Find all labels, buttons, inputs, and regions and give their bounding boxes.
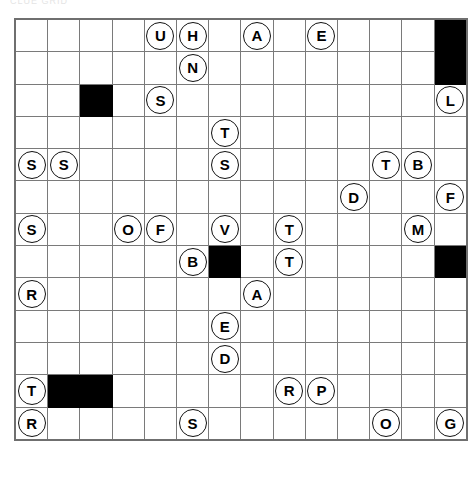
grid-cell-empty[interactable] — [144, 246, 176, 278]
grid-cell-empty[interactable] — [434, 375, 467, 407]
grid-cell-empty[interactable] — [370, 342, 402, 374]
grid-cell-empty[interactable] — [402, 407, 434, 440]
grid-cell-empty[interactable] — [80, 407, 112, 440]
grid-cell-empty[interactable] — [209, 52, 241, 84]
grid-cell-empty[interactable] — [177, 149, 209, 181]
grid-cell-empty[interactable] — [144, 407, 176, 440]
grid-cell-empty[interactable] — [177, 213, 209, 245]
grid-cell-empty[interactable] — [80, 342, 112, 374]
grid-cell-empty[interactable] — [48, 181, 80, 213]
grid-cell-empty[interactable] — [48, 310, 80, 342]
grid-cell-empty[interactable] — [338, 342, 370, 374]
grid-cell-letter[interactable]: S — [177, 407, 209, 440]
grid-cell-empty[interactable] — [305, 52, 337, 84]
grid-cell-empty[interactable] — [370, 181, 402, 213]
grid-cell-empty[interactable] — [177, 342, 209, 374]
grid-cell-empty[interactable] — [273, 407, 305, 440]
grid-cell-empty[interactable] — [48, 116, 80, 148]
grid-cell-empty[interactable] — [370, 19, 402, 52]
grid-cell-empty[interactable] — [209, 19, 241, 52]
grid-cell-letter[interactable]: P — [305, 375, 337, 407]
grid-cell-empty[interactable] — [112, 19, 144, 52]
grid-cell-empty[interactable] — [370, 116, 402, 148]
grid-cell-letter[interactable]: N — [177, 52, 209, 84]
grid-cell-empty[interactable] — [434, 342, 467, 374]
grid-cell-empty[interactable] — [241, 213, 273, 245]
grid-cell-empty[interactable] — [273, 19, 305, 52]
grid-cell-empty[interactable] — [112, 84, 144, 116]
grid-cell-empty[interactable] — [48, 342, 80, 374]
grid-cell-empty[interactable] — [305, 84, 337, 116]
grid-cell-empty[interactable] — [48, 407, 80, 440]
grid-cell-empty[interactable] — [144, 278, 176, 310]
grid-cell-letter[interactable]: U — [144, 19, 176, 52]
grid-cell-letter[interactable]: A — [241, 19, 273, 52]
grid-cell-empty[interactable] — [273, 149, 305, 181]
grid-cell-empty[interactable] — [80, 213, 112, 245]
grid-cell-letter[interactable]: G — [434, 407, 467, 440]
grid-cell-empty[interactable] — [370, 246, 402, 278]
grid-cell-empty[interactable] — [402, 181, 434, 213]
grid-cell-empty[interactable] — [338, 278, 370, 310]
grid-cell-empty[interactable] — [112, 342, 144, 374]
grid-cell-empty[interactable] — [209, 84, 241, 116]
grid-cell-letter[interactable]: S — [15, 149, 48, 181]
grid-cell-letter[interactable]: T — [273, 213, 305, 245]
grid-cell-empty[interactable] — [241, 375, 273, 407]
grid-cell-letter[interactable]: S — [15, 213, 48, 245]
grid-cell-empty[interactable] — [305, 149, 337, 181]
grid-cell-empty[interactable] — [80, 52, 112, 84]
grid-cell-blocked[interactable] — [434, 52, 467, 84]
grid-cell-empty[interactable] — [434, 116, 467, 148]
grid-cell-empty[interactable] — [80, 116, 112, 148]
grid-cell-blocked[interactable] — [434, 19, 467, 52]
grid-cell-letter[interactable]: D — [338, 181, 370, 213]
grid-cell-empty[interactable] — [338, 213, 370, 245]
grid-cell-letter[interactable]: B — [177, 246, 209, 278]
grid-cell-empty[interactable] — [338, 310, 370, 342]
grid-cell-empty[interactable] — [241, 310, 273, 342]
grid-cell-empty[interactable] — [402, 19, 434, 52]
grid-cell-empty[interactable] — [48, 246, 80, 278]
grid-cell-letter[interactable]: D — [209, 342, 241, 374]
grid-cell-empty[interactable] — [434, 149, 467, 181]
grid-cell-empty[interactable] — [112, 246, 144, 278]
grid-cell-letter[interactable]: F — [144, 213, 176, 245]
grid-cell-letter[interactable]: V — [209, 213, 241, 245]
grid-cell-letter[interactable]: S — [48, 149, 80, 181]
grid-cell-empty[interactable] — [15, 310, 48, 342]
grid-cell-empty[interactable] — [402, 84, 434, 116]
grid-cell-empty[interactable] — [338, 52, 370, 84]
grid-cell-empty[interactable] — [338, 19, 370, 52]
grid-cell-letter[interactable]: O — [370, 407, 402, 440]
grid-cell-empty[interactable] — [305, 278, 337, 310]
grid-cell-empty[interactable] — [273, 310, 305, 342]
grid-cell-empty[interactable] — [241, 149, 273, 181]
grid-cell-empty[interactable] — [80, 181, 112, 213]
grid-cell-empty[interactable] — [112, 407, 144, 440]
grid-cell-empty[interactable] — [112, 52, 144, 84]
grid-cell-empty[interactable] — [370, 310, 402, 342]
grid-cell-letter[interactable]: O — [112, 213, 144, 245]
grid-cell-letter[interactable]: M — [402, 213, 434, 245]
grid-cell-letter[interactable]: R — [15, 278, 48, 310]
grid-cell-empty[interactable] — [273, 181, 305, 213]
grid-cell-empty[interactable] — [241, 407, 273, 440]
grid-cell-empty[interactable] — [402, 116, 434, 148]
grid-cell-empty[interactable] — [144, 52, 176, 84]
grid-cell-empty[interactable] — [402, 342, 434, 374]
grid-cell-empty[interactable] — [434, 278, 467, 310]
grid-cell-empty[interactable] — [144, 149, 176, 181]
grid-cell-empty[interactable] — [112, 181, 144, 213]
grid-cell-empty[interactable] — [48, 52, 80, 84]
grid-cell-empty[interactable] — [144, 116, 176, 148]
grid-cell-empty[interactable] — [15, 84, 48, 116]
grid-cell-empty[interactable] — [177, 181, 209, 213]
puzzle-grid[interactable]: UHAENSLTSSSTBDFSOFVTMBTRAEDTRPRSOG — [14, 18, 468, 441]
grid-cell-empty[interactable] — [209, 278, 241, 310]
grid-cell-empty[interactable] — [112, 375, 144, 407]
grid-cell-empty[interactable] — [305, 246, 337, 278]
grid-cell-letter[interactable]: E — [209, 310, 241, 342]
grid-cell-empty[interactable] — [338, 375, 370, 407]
grid-cell-empty[interactable] — [48, 19, 80, 52]
